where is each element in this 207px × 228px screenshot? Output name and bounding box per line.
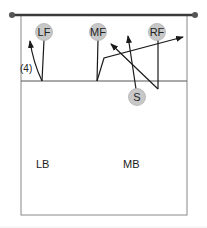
net-post-right — [192, 12, 198, 18]
player-rf[interactable]: RF — [149, 24, 166, 41]
player-s-label: S — [133, 91, 140, 103]
player-rf-label: RF — [150, 26, 165, 38]
court-boundary — [21, 15, 187, 215]
path-lf — [30, 40, 44, 81]
player-mf[interactable]: MF — [90, 24, 107, 41]
count-annotation: (4) — [20, 63, 32, 74]
player-mf-label: MF — [90, 26, 106, 38]
net-post-left — [9, 12, 15, 18]
path-mf — [97, 37, 183, 81]
volleyball-rotation-diagram: LF MF RF S (4) LB MB — [0, 0, 207, 228]
zone-label-mb: MB — [123, 158, 140, 170]
player-s[interactable]: S — [129, 89, 146, 106]
player-lf[interactable]: LF — [36, 24, 53, 41]
zone-label-lb: LB — [36, 158, 49, 170]
player-lf-label: LF — [38, 26, 51, 38]
